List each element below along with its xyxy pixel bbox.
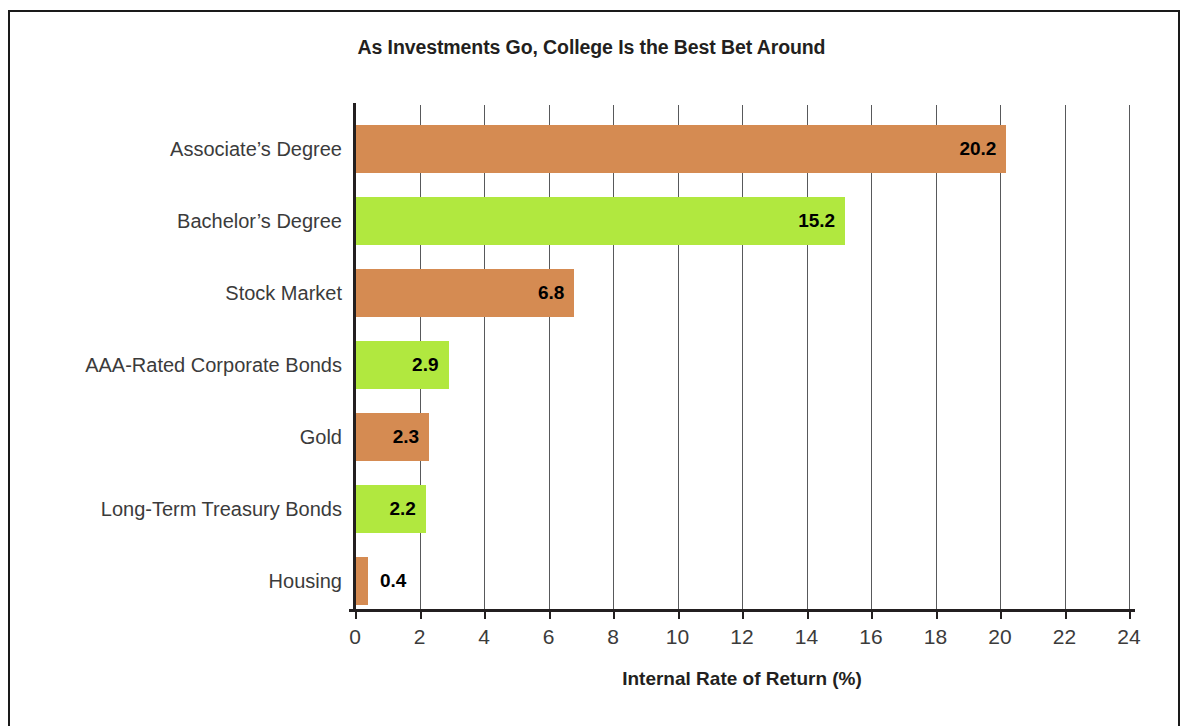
bar-row[interactable]: 0.4 — [355, 557, 368, 605]
bar-row[interactable]: 6.8 — [355, 269, 574, 317]
category-label: Long-Term Treasury Bonds — [15, 485, 342, 533]
x-tick-label-12: 12 — [712, 625, 772, 649]
x-tick-label-18: 18 — [906, 625, 966, 649]
x-axis-title: Internal Rate of Return (%) — [355, 668, 1129, 690]
bar[interactable] — [355, 557, 368, 605]
category-label: Gold — [15, 413, 342, 461]
tick-mark-6 — [549, 610, 551, 619]
gridline-4 — [484, 105, 485, 610]
gridline-22 — [1065, 105, 1066, 610]
gridline-18 — [936, 105, 937, 610]
tick-mark-4 — [484, 610, 486, 619]
tick-mark-2 — [420, 610, 422, 619]
bar-row[interactable]: 2.9 — [355, 341, 449, 389]
x-tick-label-0: 0 — [325, 625, 385, 649]
bar-row[interactable]: 2.2 — [355, 485, 426, 533]
category-label: Bachelor’s Degree — [15, 197, 342, 245]
tick-mark-18 — [936, 610, 938, 619]
bar-value-label: 2.3 — [393, 413, 419, 461]
tick-mark-12 — [742, 610, 744, 619]
bar[interactable] — [355, 197, 845, 245]
chart-figure: As Investments Go, College Is the Best B… — [0, 0, 1183, 726]
tick-mark-8 — [613, 610, 615, 619]
gridline-6 — [549, 105, 550, 610]
x-tick-label-6: 6 — [519, 625, 579, 649]
bar[interactable] — [355, 125, 1006, 173]
bar-value-label: 0.4 — [380, 557, 406, 605]
tick-mark-22 — [1065, 610, 1067, 619]
x-tick-label-22: 22 — [1035, 625, 1095, 649]
tick-mark-16 — [871, 610, 873, 619]
chart-title: As Investments Go, College Is the Best B… — [0, 36, 1183, 59]
bar-row[interactable]: 2.3 — [355, 413, 429, 461]
tick-mark-24 — [1129, 610, 1131, 619]
gridline-16 — [871, 105, 872, 610]
category-label: AAA-Rated Corporate Bonds — [15, 341, 342, 389]
tick-mark-14 — [807, 610, 809, 619]
gridline-24 — [1129, 105, 1130, 610]
x-tick-label-14: 14 — [777, 625, 837, 649]
category-label: Associate’s Degree — [15, 125, 342, 173]
tick-mark-0 — [355, 610, 357, 619]
x-tick-label-4: 4 — [454, 625, 514, 649]
bar-value-label: 6.8 — [538, 269, 564, 317]
tick-mark-10 — [678, 610, 680, 619]
y-axis-line — [353, 103, 356, 612]
x-tick-label-20: 20 — [970, 625, 1030, 649]
bar-row[interactable]: 20.2 — [355, 125, 1006, 173]
x-tick-label-10: 10 — [648, 625, 708, 649]
category-label: Housing — [15, 557, 342, 605]
x-tick-label-2: 2 — [390, 625, 450, 649]
gridline-10 — [678, 105, 679, 610]
gridline-12 — [742, 105, 743, 610]
x-tick-label-8: 8 — [583, 625, 643, 649]
gridline-20 — [1000, 105, 1001, 610]
bar-row[interactable]: 15.2 — [355, 197, 845, 245]
bar-value-label: 15.2 — [798, 197, 835, 245]
x-tick-label-16: 16 — [841, 625, 901, 649]
bar-value-label: 2.9 — [412, 341, 438, 389]
bar-value-label: 2.2 — [390, 485, 416, 533]
gridline-14 — [807, 105, 808, 610]
bar-value-label: 20.2 — [959, 125, 996, 173]
x-tick-label-24: 24 — [1099, 625, 1159, 649]
y-axis-category-labels: Associate’s DegreeBachelor’s DegreeStock… — [15, 105, 342, 610]
tick-mark-20 — [1000, 610, 1002, 619]
gridline-8 — [613, 105, 614, 610]
category-label: Stock Market — [15, 269, 342, 317]
